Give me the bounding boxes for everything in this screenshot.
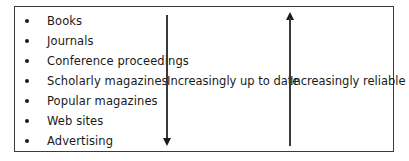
list-item: Journals xyxy=(15,31,160,51)
source-label: Books xyxy=(47,11,82,31)
down-arrow-caption: Increasingly up to date xyxy=(167,74,290,88)
source-label: Web sites xyxy=(47,111,103,131)
list-item: Books xyxy=(15,11,160,31)
source-label: Popular magazines xyxy=(47,91,158,111)
bullet-icon xyxy=(25,19,29,23)
list-item: Advertising xyxy=(15,131,160,151)
list-item: Popular magazines xyxy=(15,91,160,111)
bullet-icon xyxy=(25,99,29,103)
source-label: Journals xyxy=(47,31,94,51)
bullet-icon xyxy=(25,79,29,83)
arrow-down-icon xyxy=(163,138,171,146)
bullet-icon xyxy=(25,39,29,43)
source-label: Scholarly magazines xyxy=(47,71,168,91)
list-item: Scholarly magazines xyxy=(15,71,160,91)
diagram-frame: Books Journals Conference proceedings Sc… xyxy=(14,6,394,152)
list-item: Web sites xyxy=(15,111,160,131)
bullet-icon xyxy=(25,59,29,63)
bullet-icon xyxy=(25,119,29,123)
list-item: Conference proceedings xyxy=(15,51,160,71)
source-label: Advertising xyxy=(47,131,113,151)
up-arrow-caption: Increasingly reliable xyxy=(290,74,393,88)
bullet-icon xyxy=(25,139,29,143)
source-label: Conference proceedings xyxy=(47,51,189,71)
